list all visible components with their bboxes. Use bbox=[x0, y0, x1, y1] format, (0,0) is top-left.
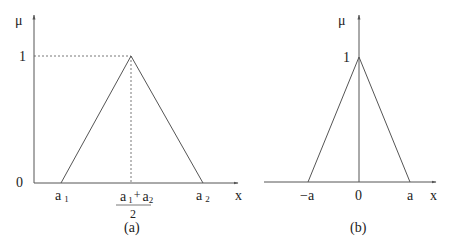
svg-text:a1+a2: a1+a2 bbox=[120, 188, 153, 205]
panel-a-y-tick-one: 1 bbox=[19, 49, 26, 64]
panel-b-x-label: x bbox=[430, 188, 437, 203]
panel-b-x-tick-a: a bbox=[407, 188, 414, 203]
panel-a-x-label: x bbox=[235, 188, 242, 203]
panel-a-caption: (a) bbox=[124, 220, 140, 236]
panel-b-y-label: μ bbox=[338, 13, 346, 28]
panel-b-x-tick-neg-a: −a bbox=[300, 188, 315, 203]
panel-a-fraction-denominator: 2 bbox=[130, 207, 136, 221]
panel-a-midpoint-fraction: a1+a2 2 bbox=[116, 188, 153, 221]
panel-a-triangle-curve bbox=[61, 56, 203, 183]
panel-b-caption: (b) bbox=[350, 220, 367, 236]
panel-b-y-tick-one: 1 bbox=[343, 50, 350, 65]
membership-function-diagram: μ 1 0 x a1 a2 a1+a2 2 (a) μ 1 −a 0 a x (… bbox=[0, 0, 450, 245]
panel-a-tick-a1: a1 bbox=[55, 188, 69, 204]
panel-b-x-tick-zero: 0 bbox=[355, 188, 362, 203]
panel-a: μ 1 0 x a1 a2 a1+a2 2 (a) bbox=[15, 13, 242, 236]
panel-b: μ 1 −a 0 a x (b) bbox=[264, 13, 437, 236]
panel-a-y-tick-zero: 0 bbox=[16, 175, 23, 190]
panel-a-tick-a2: a2 bbox=[196, 188, 210, 204]
panel-a-y-label: μ bbox=[15, 13, 23, 28]
